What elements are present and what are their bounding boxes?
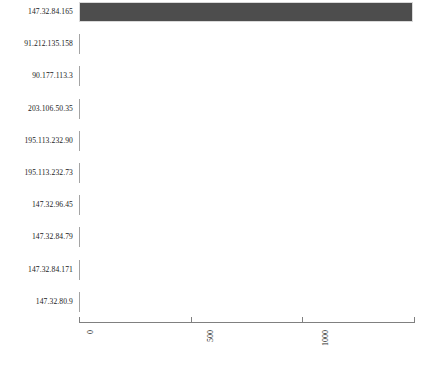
category-label: 203.106.50.35 — [0, 105, 73, 113]
x-axis-line — [79, 322, 415, 323]
bar — [79, 260, 80, 280]
category-label: 147.32.84.79 — [0, 233, 73, 241]
bar — [79, 227, 80, 247]
x-tick-mark — [414, 317, 415, 322]
x-tick-mark — [302, 317, 303, 322]
bar — [79, 195, 80, 215]
x-tick-label: 500 — [207, 330, 215, 342]
x-tick-mark — [79, 317, 80, 322]
category-label: 195.113.232.90 — [0, 137, 73, 145]
bar — [79, 66, 80, 86]
category-label: 195.113.232.73 — [0, 169, 73, 177]
category-label: 147.32.80.9 — [0, 298, 73, 306]
bar — [79, 292, 80, 312]
bar — [79, 34, 80, 54]
x-tick-mark — [191, 317, 192, 322]
x-tick-label: 0 — [87, 330, 95, 334]
bar — [79, 99, 80, 119]
category-label: 90.177.113.3 — [0, 72, 73, 80]
category-label: 91.212.135.158 — [0, 40, 73, 48]
category-label: 147.32.84.171 — [0, 266, 73, 274]
bar — [79, 2, 413, 22]
category-label: 147.32.96.45 — [0, 201, 73, 209]
bar-chart: 147.32.84.16591.212.135.15890.177.113.32… — [0, 0, 423, 368]
category-label: 147.32.84.165 — [0, 8, 73, 16]
x-tick-label: 1000 — [322, 330, 330, 346]
bar — [79, 163, 80, 183]
bar — [79, 131, 80, 151]
